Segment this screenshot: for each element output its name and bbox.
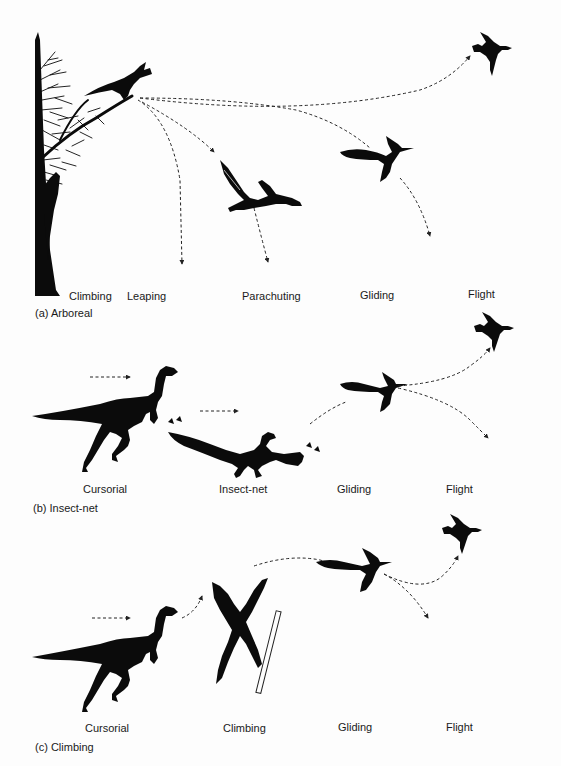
- panel-b-insect-net: [32, 312, 514, 478]
- gliding-animal-silhouette-c: [316, 548, 392, 592]
- stage-label-flight-a: Flight: [468, 288, 495, 300]
- stage-label-gliding-c: Gliding: [338, 721, 372, 733]
- stage-label-cursorial-b: Cursorial: [83, 483, 127, 495]
- cursorial-dinosaur-silhouette-c: [32, 606, 178, 712]
- arrow-glide-fall-c: [384, 574, 428, 618]
- stage-label-flight-c: Flight: [446, 721, 473, 733]
- arrow-to-leaping: [138, 100, 182, 264]
- arrow-glide-fall: [400, 178, 430, 236]
- arrow-net-to-glide: [310, 402, 346, 424]
- evolution-of-flight-diagram: [0, 0, 561, 766]
- cursorial-dinosaur-silhouette: [32, 366, 178, 472]
- stage-label-gliding-a: Gliding: [360, 289, 394, 301]
- arrow-parachute-fall: [254, 208, 268, 262]
- stage-label-climbing-a: Climbing: [69, 290, 112, 302]
- stage-label-parachuting: Parachuting: [242, 290, 301, 302]
- stage-label-climbing-c: Climbing: [223, 722, 266, 734]
- stage-label-flight-b: Flight: [446, 483, 473, 495]
- climbing-surface-post: [256, 611, 281, 694]
- arrow-to-parachuting: [142, 102, 214, 152]
- leaping-dinosaur-silhouette: [84, 62, 152, 100]
- insect-net-dinosaur-silhouette: [168, 432, 304, 478]
- gliding-animal-silhouette: [340, 136, 414, 182]
- stage-label-cursorial-c: Cursorial: [85, 722, 129, 734]
- panel-title-a: (a) Arboreal: [35, 307, 92, 319]
- stage-label-leaping: Leaping: [127, 290, 166, 302]
- flying-bird-silhouette: [472, 32, 512, 76]
- arrow-to-flight: [140, 56, 470, 106]
- flying-bird-silhouette-b: [474, 312, 514, 352]
- climbing-animal-silhouette: [212, 578, 281, 693]
- panel-title-b: (b) Insect-net: [33, 502, 98, 514]
- arrow-glide-to-flight-b: [398, 348, 490, 386]
- gliding-animal-silhouette-b: [340, 372, 408, 412]
- stage-label-insect-net: Insect-net: [219, 483, 267, 495]
- panel-c-climbing: [32, 514, 482, 712]
- flying-bird-silhouette-c: [442, 514, 482, 554]
- arrow-cursorial-to-climb: [182, 596, 202, 618]
- arrow-to-gliding: [140, 98, 370, 148]
- panel-title-c: (c) Climbing: [35, 741, 94, 753]
- tree-silhouette: [35, 32, 132, 296]
- arrow-glide-to-flight-c: [384, 556, 458, 584]
- arrow-glide-fall-b: [398, 388, 488, 438]
- stage-label-gliding-b: Gliding: [337, 483, 371, 495]
- panel-a-arboreal: [35, 32, 512, 296]
- parachuting-animal-silhouette: [220, 160, 302, 212]
